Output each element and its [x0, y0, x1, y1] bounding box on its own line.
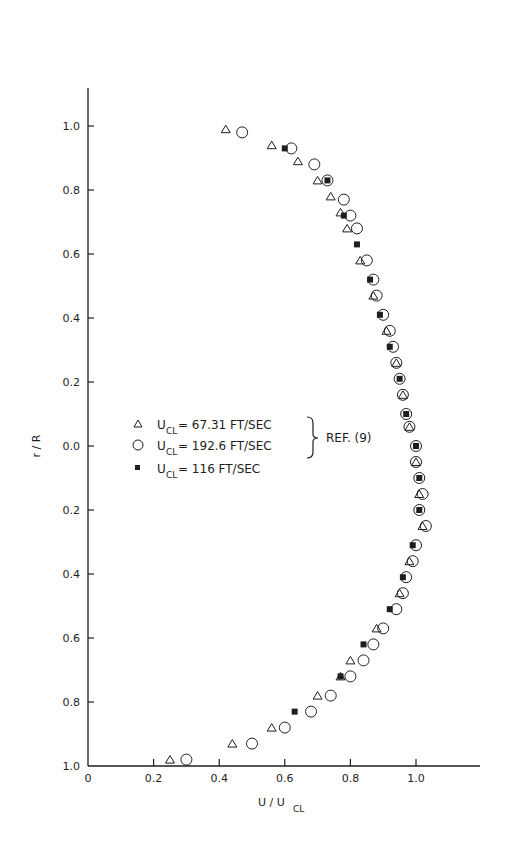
x-axis-label: U / U CL: [258, 796, 304, 814]
circle-marker: [306, 706, 317, 717]
square-marker: [354, 241, 360, 247]
triangle-marker: [369, 292, 378, 300]
legend-bracket-label: REF. (9): [326, 431, 372, 445]
x-tick-label: 0.2: [145, 772, 163, 785]
legend-square-icon: [135, 465, 140, 470]
legend: U CL = 67.31 FT/SEC U CL = 192.6 FT/SEC …: [133, 417, 372, 480]
triangle-marker: [293, 157, 302, 165]
y-tick-label: 0.6: [63, 248, 81, 261]
y-tick-label: 0.2: [63, 504, 81, 517]
square-marker: [361, 641, 367, 647]
triangle-marker: [228, 740, 237, 748]
y-tick-label: 0.8: [63, 696, 81, 709]
triangle-marker: [313, 692, 322, 700]
triangle-marker: [382, 327, 391, 335]
y-tick-label: 0.4: [63, 312, 81, 325]
circle-marker: [279, 722, 290, 733]
y-tick-label: 0.8: [63, 184, 81, 197]
legend-sym-2: U: [157, 439, 166, 453]
circle-marker: [309, 159, 320, 170]
square-marker: [387, 344, 393, 350]
axes: 1.00.80.60.40.20.00.20.40.60.81.0 00.20.…: [63, 88, 481, 785]
legend-label-2: = 192.6 FT/SEC: [178, 439, 272, 453]
square-marker: [367, 277, 373, 283]
x-axis-label-sub: CL: [293, 804, 304, 814]
y-axis-label: r / R: [30, 434, 43, 457]
circle-marker: [368, 639, 379, 650]
x-tick-label: 0: [85, 772, 92, 785]
square-marker: [410, 542, 416, 548]
y-tick-label: 0.6: [63, 632, 81, 645]
triangle-marker: [415, 490, 424, 498]
x-tick-label: 1.0: [407, 772, 425, 785]
triangle-marker: [267, 724, 276, 732]
legend-sym-1: U: [157, 418, 166, 432]
triangle-marker: [346, 656, 355, 664]
legend-sub-2: CL: [166, 447, 177, 457]
circle-marker: [181, 754, 192, 765]
triangle-marker: [343, 224, 352, 232]
square-marker: [377, 312, 383, 318]
legend-label-3: = 116 FT/SEC: [178, 462, 260, 476]
legend-circle-icon: [133, 440, 143, 450]
triangle-marker: [405, 423, 414, 431]
triangle-marker: [356, 256, 365, 264]
circle-marker: [325, 690, 336, 701]
square-marker: [324, 177, 330, 183]
velocity-profile-chart: 1.00.80.60.40.20.00.20.40.60.81.0 00.20.…: [0, 0, 506, 847]
triangle-marker: [221, 125, 230, 133]
circle-marker: [351, 223, 362, 234]
legend-triangle-icon: [134, 420, 142, 427]
x-tick-label: 0.6: [276, 772, 294, 785]
y-tick-label: 1.0: [63, 120, 81, 133]
legend-sub-1: CL: [166, 426, 177, 436]
legend-bracket: [307, 417, 318, 458]
triangle-marker: [412, 458, 421, 466]
triangle-marker: [372, 624, 381, 632]
circle-marker: [237, 127, 248, 138]
circle-marker: [358, 655, 369, 666]
y-ticks: 1.00.80.60.40.20.00.20.40.60.81.0: [63, 120, 95, 773]
triangle-marker: [392, 359, 401, 367]
x-ticks: 00.20.40.60.81.0: [85, 759, 425, 785]
triangle-marker: [166, 756, 175, 764]
square-marker: [338, 673, 344, 679]
square-marker: [282, 145, 288, 151]
x-tick-label: 0.4: [210, 772, 228, 785]
square-marker: [387, 606, 393, 612]
square-marker: [400, 574, 406, 580]
triangle-marker: [313, 176, 322, 184]
y-tick-label: 1.0: [63, 760, 81, 773]
square-marker: [292, 709, 298, 715]
circle-marker: [247, 738, 258, 749]
triangle-marker: [418, 522, 427, 530]
square-marker: [341, 213, 347, 219]
x-tick-label: 0.8: [342, 772, 360, 785]
square-marker: [403, 411, 409, 417]
circle-marker: [345, 671, 356, 682]
triangle-marker: [395, 589, 404, 597]
legend-sub-3: CL: [166, 470, 177, 480]
y-tick-label: 0.2: [63, 376, 81, 389]
y-tick-label: 0.4: [63, 568, 81, 581]
y-tick-label: 0.0: [63, 440, 81, 453]
triangle-marker: [398, 391, 407, 399]
square-marker: [397, 376, 403, 382]
x-axis-label-main: U / U: [258, 796, 285, 809]
triangle-marker: [267, 141, 276, 149]
circle-marker: [338, 194, 349, 205]
legend-label-1: = 67.31 FT/SEC: [178, 418, 272, 432]
square-marker: [413, 443, 419, 449]
legend-sym-3: U: [157, 462, 166, 476]
triangle-marker: [326, 192, 335, 200]
square-marker: [416, 507, 422, 513]
triangle-marker: [405, 557, 414, 565]
square-marker: [416, 475, 422, 481]
